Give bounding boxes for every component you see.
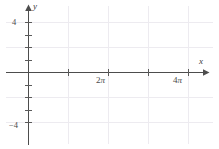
y-axis-label: y (33, 2, 37, 11)
y-tick-label-4: 4 (12, 18, 16, 27)
y-axis-arrowhead (25, 5, 32, 12)
coordinate-grid-figure: y x 4 −4 2π 4π (0, 0, 219, 149)
x-tick-label-2pi: 2π (96, 76, 105, 85)
x-axis-label: x (199, 57, 203, 66)
x-tick-label-4pi: 4π (173, 76, 182, 85)
plot-canvas (0, 0, 219, 149)
pi-symbol-icon: π (101, 75, 106, 85)
pi-symbol-icon: π (178, 75, 183, 85)
vertical-gridlines (69, 6, 189, 144)
y-tick-label-negative-4: −4 (9, 121, 18, 130)
x-axis-arrowhead (203, 69, 210, 76)
